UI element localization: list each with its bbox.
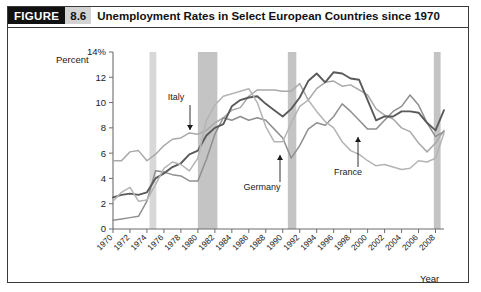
recession-band bbox=[198, 52, 218, 229]
x-tick-label: 1974 bbox=[128, 232, 148, 252]
y-axis-title: Percent bbox=[56, 49, 89, 67]
figure-container: FIGURE 8.6 Unemployment Rates in Select … bbox=[0, 0, 481, 292]
x-tick-label: 2002 bbox=[366, 232, 386, 252]
series-line-italy bbox=[113, 81, 444, 161]
y-tick-label: 10 bbox=[95, 97, 106, 108]
chart-area: 02468101214% 197019721974197619781980198… bbox=[0, 0, 481, 292]
x-tick-label: 1988 bbox=[247, 232, 267, 252]
x-tick-label: 1972 bbox=[111, 232, 131, 252]
axis-lines bbox=[113, 52, 444, 229]
y-tick-label: 8 bbox=[101, 122, 106, 133]
chart-axes bbox=[113, 52, 444, 229]
recession-band bbox=[149, 52, 156, 229]
x-tick-label: 1990 bbox=[264, 232, 284, 252]
annotation-arrow-head bbox=[277, 155, 283, 160]
x-axis-tick-labels: 1970197219741976197819801982198419861988… bbox=[94, 232, 437, 252]
x-tick-label: 1984 bbox=[213, 232, 233, 252]
x-tick-label: 1978 bbox=[162, 232, 182, 252]
annotation-arrow-head bbox=[187, 125, 193, 130]
x-tick-label: 1982 bbox=[196, 232, 216, 252]
x-tick-label: 1992 bbox=[281, 232, 301, 252]
x-tick-label: 2006 bbox=[400, 232, 420, 252]
data-series bbox=[113, 72, 444, 220]
x-axis-title: Year bbox=[420, 268, 439, 286]
y-tick-label: 6 bbox=[101, 148, 106, 159]
y-tick-label: 4 bbox=[101, 173, 106, 184]
y-axis-tick-labels: 02468101214% bbox=[87, 46, 107, 234]
x-tick-label: 1996 bbox=[315, 232, 335, 252]
x-tick-label: 1998 bbox=[332, 232, 352, 252]
y-tick-label: 12 bbox=[95, 72, 106, 83]
recession-bands bbox=[149, 52, 440, 229]
x-tick-label: 1994 bbox=[298, 232, 318, 252]
unemployment-line-chart: 02468101214% 197019721974197619781980198… bbox=[0, 0, 481, 292]
axis-ticks bbox=[109, 52, 436, 233]
x-tick-label: 1980 bbox=[179, 232, 199, 252]
y-tick-label: 0 bbox=[101, 223, 106, 234]
series-annotations: ItalyGermanyFrance bbox=[168, 92, 362, 192]
y-tick-label: 2 bbox=[101, 198, 106, 209]
annotation-label-italy: Italy bbox=[168, 92, 185, 102]
x-tick-label: 1976 bbox=[145, 232, 165, 252]
annotation-label-france: France bbox=[334, 167, 362, 177]
x-tick-label: 2008 bbox=[417, 232, 437, 252]
annotation-arrow-head bbox=[355, 137, 361, 142]
annotation-label-germany: Germany bbox=[243, 182, 281, 192]
x-tick-label: 1986 bbox=[230, 232, 250, 252]
y-tick-label: 14% bbox=[87, 46, 107, 57]
x-tick-label: 1970 bbox=[94, 232, 114, 252]
x-tick-label: 2004 bbox=[383, 232, 403, 252]
x-tick-label: 2000 bbox=[349, 232, 369, 252]
recession-band bbox=[288, 52, 296, 229]
